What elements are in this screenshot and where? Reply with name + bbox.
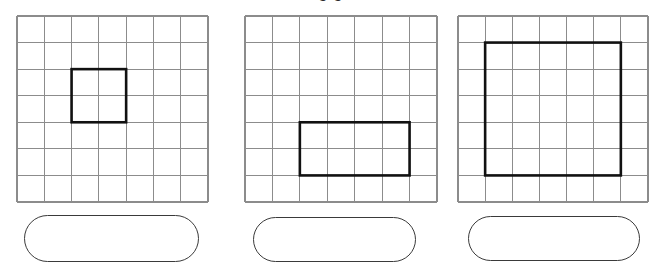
grid-svg-2 [242,13,440,205]
answer-value-1 [25,216,198,261]
figure-panel-1 [0,0,228,272]
answer-box-2[interactable] [253,217,416,262]
answer-box-3[interactable] [468,216,640,261]
grid-svg-1 [14,13,211,205]
grid-background [245,16,437,202]
grid-figure-3 [458,16,648,202]
answer-value-3 [469,217,639,260]
grid-figure-2 [245,16,437,202]
grid-background [17,16,208,202]
grid-figure-1 [17,16,208,202]
figure-panel-3 [443,0,656,272]
answer-box-1[interactable] [24,215,199,262]
answer-value-2 [254,218,415,261]
figure-panel-2 [228,0,443,272]
worksheet-canvas: o o [0,0,656,272]
grid-svg-3 [455,13,651,205]
grid-background [458,16,648,202]
